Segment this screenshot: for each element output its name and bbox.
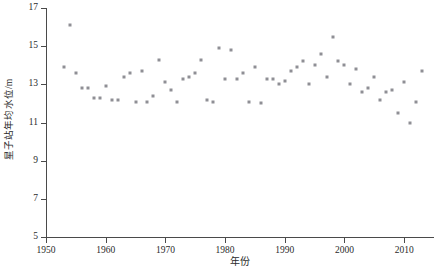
x-tick-label: 1990 — [265, 245, 305, 255]
data-point — [98, 96, 101, 99]
x-tick-mark — [404, 238, 405, 243]
data-point — [367, 87, 370, 90]
scatter-chart-figure: 星子站年均水位/m 57911131517 195019601970198019… — [0, 0, 434, 278]
x-axis-title-text: 年份 — [230, 256, 250, 267]
data-point — [122, 75, 125, 78]
y-tick-label: 5 — [8, 232, 38, 242]
data-point — [241, 71, 244, 74]
x-tick-label: 1970 — [145, 245, 185, 255]
data-point — [253, 66, 256, 69]
data-point — [92, 96, 95, 99]
data-point — [259, 102, 262, 105]
data-point — [140, 69, 143, 72]
data-point — [224, 77, 227, 80]
data-point — [247, 100, 250, 103]
data-point — [265, 77, 268, 80]
data-point — [236, 77, 239, 80]
plot-area — [46, 9, 434, 237]
data-point — [397, 111, 400, 114]
data-point — [158, 58, 161, 61]
data-point — [74, 71, 77, 74]
x-tick-mark — [285, 238, 286, 243]
data-point — [152, 94, 155, 97]
data-point — [116, 98, 119, 101]
data-point — [385, 90, 388, 93]
data-point — [283, 79, 286, 82]
data-point — [289, 69, 292, 72]
data-point — [164, 81, 167, 84]
x-tick-label: 1950 — [26, 245, 66, 255]
x-tick-mark — [46, 238, 47, 243]
data-point — [361, 90, 364, 93]
data-point — [68, 24, 71, 27]
data-point — [301, 60, 304, 63]
y-tick-label: 11 — [8, 118, 38, 128]
data-point — [313, 64, 316, 67]
data-point — [212, 100, 215, 103]
y-tick-label: 9 — [8, 156, 38, 166]
data-point — [206, 98, 209, 101]
y-tick-label: 17 — [8, 3, 38, 13]
data-point — [128, 71, 131, 74]
data-point — [188, 75, 191, 78]
data-point — [325, 75, 328, 78]
x-tick-mark — [225, 238, 226, 243]
data-point — [62, 66, 65, 69]
data-point — [80, 87, 83, 90]
data-point — [319, 52, 322, 55]
data-point — [379, 98, 382, 101]
data-point — [271, 77, 274, 80]
data-point — [331, 35, 334, 38]
data-point — [277, 83, 280, 86]
data-point — [355, 68, 358, 71]
data-point — [134, 100, 137, 103]
x-tick-mark — [106, 238, 107, 243]
y-tick-label: 15 — [8, 41, 38, 51]
data-point — [200, 58, 203, 61]
data-point — [230, 48, 233, 51]
data-point — [403, 81, 406, 84]
data-point — [104, 85, 107, 88]
y-tick-label: 13 — [8, 79, 38, 89]
data-point — [110, 98, 113, 101]
y-tick-label: 7 — [8, 194, 38, 204]
data-point — [421, 69, 424, 72]
x-tick-label: 1960 — [86, 245, 126, 255]
data-point — [170, 89, 173, 92]
x-tick-label: 2000 — [324, 245, 364, 255]
data-point — [307, 83, 310, 86]
data-point — [194, 71, 197, 74]
x-tick-label: 2010 — [384, 245, 424, 255]
data-point — [182, 77, 185, 80]
x-axis-line — [46, 237, 434, 238]
x-axis-title: 年份 — [46, 256, 434, 267]
data-point — [86, 87, 89, 90]
data-point — [343, 64, 346, 67]
data-point — [176, 100, 179, 103]
x-tick-label: 1980 — [205, 245, 245, 255]
data-point — [146, 100, 149, 103]
data-point — [391, 89, 394, 92]
data-point — [409, 121, 412, 124]
data-point — [337, 60, 340, 63]
x-tick-mark — [165, 238, 166, 243]
data-point — [415, 100, 418, 103]
data-point — [295, 66, 298, 69]
data-point — [373, 75, 376, 78]
data-point — [218, 47, 221, 50]
data-point — [349, 83, 352, 86]
x-tick-mark — [344, 238, 345, 243]
